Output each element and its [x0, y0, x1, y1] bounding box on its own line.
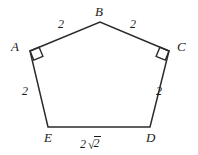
- vertex-label-e: E: [44, 131, 52, 144]
- vertex-label-c: C: [177, 40, 186, 53]
- radical-coefficient: 2: [80, 137, 86, 151]
- radical-expression: 2√2: [80, 137, 101, 151]
- geometry-figure: A B C D E 2 2 2 2 2√2: [0, 0, 198, 155]
- pentagon-outline: [30, 22, 169, 127]
- edge-length-label-cd: 2: [156, 85, 162, 97]
- edge-length-label-ed: 2√2: [80, 135, 101, 151]
- vertex-label-a: A: [11, 40, 19, 53]
- edge-length-label-bc: 2: [130, 18, 136, 30]
- radicand: 2: [94, 136, 101, 149]
- edge-length-label-ea: 2: [22, 85, 28, 97]
- vertex-label-d: D: [146, 131, 155, 144]
- vertex-label-b: B: [95, 5, 103, 18]
- edge-length-label-ab: 2: [58, 18, 64, 30]
- pentagon-diagram-svg: [0, 0, 198, 155]
- radical-group: √2: [87, 137, 101, 151]
